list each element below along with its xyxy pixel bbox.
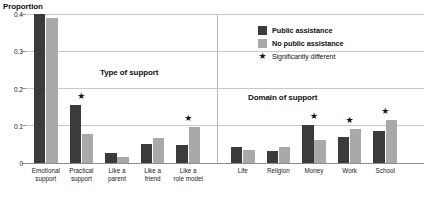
legend-item-public-assistance: Public assistance	[258, 24, 344, 37]
bar-public-assistance	[105, 153, 117, 163]
bar-no-public-assistance	[189, 127, 201, 163]
x-axis-category-label: Practical support	[69, 167, 93, 182]
y-tick-label: 0.3	[14, 48, 23, 55]
gridline	[26, 14, 424, 15]
bar-no-public-assistance	[153, 138, 165, 163]
x-axis-category-label: Work	[342, 167, 357, 175]
x-axis-category-label: Like a role model	[173, 167, 202, 182]
legend-label-no-public-assistance: No public assistance	[272, 39, 344, 48]
legend: Public assistance No public assistance ★…	[258, 24, 344, 63]
x-axis-category-label: Money	[305, 167, 324, 175]
gridline	[26, 88, 424, 89]
gridline	[26, 125, 424, 126]
significance-star-icon: ★	[310, 112, 318, 121]
x-axis-category-label: Emotional support	[32, 167, 60, 182]
panel-heading-domain-of-support: Domain of support	[248, 93, 317, 102]
bar-no-public-assistance	[386, 120, 398, 163]
bar-public-assistance	[231, 147, 243, 163]
bar-public-assistance	[34, 14, 46, 163]
star-icon: ★	[258, 52, 267, 61]
significance-star-icon: ★	[381, 107, 389, 116]
bar-no-public-assistance	[314, 140, 326, 163]
legend-swatch-light-icon	[258, 39, 267, 48]
bar-public-assistance	[373, 131, 385, 163]
significance-star-icon: ★	[77, 92, 85, 101]
bar-no-public-assistance	[82, 134, 94, 163]
y-tick-label: 0	[19, 160, 23, 167]
bar-public-assistance	[141, 144, 153, 163]
bar-public-assistance	[302, 125, 314, 163]
bar-public-assistance	[70, 105, 82, 163]
significance-star-icon: ★	[184, 114, 192, 123]
x-axis-category-label: Like a friend	[144, 167, 161, 182]
gridline	[26, 51, 424, 52]
x-axis-category-label: Religion	[267, 167, 290, 175]
bar-chart: Proportion 00.10.20.30.4★★★★★ Type of su…	[0, 0, 426, 199]
bar-no-public-assistance	[279, 147, 291, 163]
bar-public-assistance	[176, 145, 188, 163]
bar-public-assistance	[267, 151, 279, 163]
panel-divider	[217, 14, 218, 163]
panel-heading-type-of-support: Type of support	[100, 68, 158, 77]
significance-star-icon: ★	[346, 116, 354, 125]
bar-no-public-assistance	[117, 157, 129, 163]
legend-label-public-assistance: Public assistance	[272, 26, 332, 35]
y-tick-label: 0.2	[14, 85, 23, 92]
x-axis-category-label: Life	[238, 167, 248, 175]
legend-item-significantly-different: ★ Significantly different	[258, 50, 344, 63]
bar-no-public-assistance	[350, 129, 362, 163]
x-axis-category-label: Like a parent	[108, 167, 126, 182]
y-tick-label: 0.4	[14, 11, 23, 18]
y-tick-label: 0.1	[14, 122, 23, 129]
legend-item-no-public-assistance: No public assistance	[258, 37, 344, 50]
bar-no-public-assistance	[243, 150, 255, 163]
legend-label-significantly-different: Significantly different	[272, 53, 335, 60]
plot-area: 00.10.20.30.4★★★★★	[26, 14, 424, 163]
x-axis-category-label: School	[376, 167, 395, 175]
legend-swatch-dark-icon	[258, 26, 267, 35]
bar-public-assistance	[338, 137, 350, 163]
bar-no-public-assistance	[46, 18, 58, 163]
